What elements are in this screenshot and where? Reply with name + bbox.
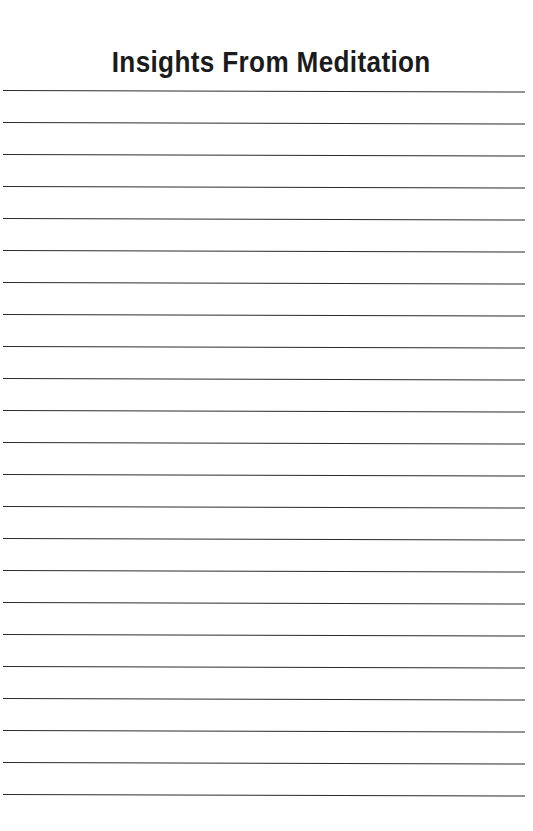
writing-rule-line bbox=[3, 794, 525, 796]
writing-rule-line bbox=[3, 506, 525, 508]
writing-rule-line bbox=[3, 730, 525, 732]
writing-rule-line bbox=[3, 154, 525, 156]
writing-rule-line bbox=[3, 218, 525, 220]
writing-rule-line bbox=[3, 410, 525, 412]
writing-rule-line bbox=[3, 570, 525, 572]
writing-rule-line bbox=[3, 122, 525, 124]
writing-rule-line bbox=[3, 666, 525, 668]
writing-rule-line bbox=[3, 538, 525, 540]
writing-rule-line bbox=[3, 378, 525, 380]
writing-rule-line bbox=[3, 698, 525, 700]
writing-rule-line bbox=[3, 186, 525, 188]
writing-rule-line bbox=[3, 346, 525, 348]
writing-rule-line bbox=[3, 442, 525, 444]
writing-rule-line bbox=[3, 314, 525, 316]
writing-rule-line bbox=[3, 90, 525, 92]
writing-rule-line bbox=[3, 762, 525, 764]
writing-rule-line bbox=[3, 602, 525, 604]
writing-rule-line bbox=[3, 250, 525, 252]
writing-rule-line bbox=[3, 634, 525, 636]
writing-rule-line bbox=[3, 474, 525, 476]
writing-rule-line bbox=[3, 282, 525, 284]
notebook-page: Insights From Meditation bbox=[0, 0, 533, 831]
ruled-lines-container bbox=[0, 0, 533, 831]
